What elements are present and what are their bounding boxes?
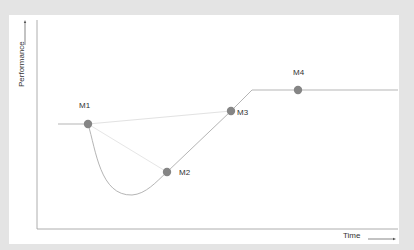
performance-curve	[58, 90, 398, 195]
x-axis-arrowhead-icon	[393, 238, 396, 240]
marker-label-m1: M1	[79, 101, 91, 110]
marker-m4	[294, 86, 302, 94]
marker-label-m3: M3	[237, 108, 249, 117]
marker-m2	[163, 168, 171, 176]
y-axis-arrowhead-icon	[24, 20, 26, 23]
y-axis-label: Performance	[17, 41, 26, 87]
marker-m1	[84, 120, 92, 128]
marker-label-m4: M4	[293, 68, 305, 77]
marker-m3	[227, 107, 235, 115]
connector-m1-m3	[88, 111, 231, 124]
marker-label-m2: M2	[179, 168, 191, 177]
connector-m1-m2	[88, 124, 167, 172]
x-axis-label: Time	[343, 231, 361, 240]
performance-time-diagram: Performance Time M1 M2 M3 M4	[0, 0, 414, 250]
